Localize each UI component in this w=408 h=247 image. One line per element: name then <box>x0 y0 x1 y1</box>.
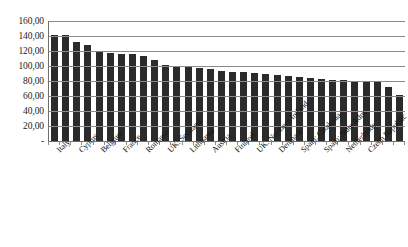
y-tick-label: 160,00 <box>18 16 44 26</box>
bar <box>196 68 203 141</box>
y-tick-label: 120,00 <box>18 46 44 56</box>
x-tick <box>393 141 394 145</box>
bar <box>151 60 158 141</box>
x-axis-labels: ItalyCyprusBelgiumFranceRomaniaUK: Scotl… <box>48 146 408 247</box>
bar <box>173 67 180 141</box>
bar <box>285 76 292 141</box>
y-tick-label: 140,00 <box>18 31 44 41</box>
x-tick <box>48 141 49 145</box>
y-tick-label: 100,00 <box>18 61 44 71</box>
gridline <box>49 96 405 97</box>
gridline <box>49 21 405 22</box>
bar-chart: 160,00140,00120,00100,0080,0060,0040,002… <box>0 0 408 247</box>
y-axis: 160,00140,00120,00100,0080,0060,0040,002… <box>0 0 48 142</box>
bar <box>307 78 314 141</box>
gridline <box>49 36 405 37</box>
gridline <box>49 81 405 82</box>
x-tick <box>404 141 405 145</box>
bar <box>129 54 136 141</box>
gridline <box>49 51 405 52</box>
bar <box>229 72 236 141</box>
y-tick-label: 80,00 <box>23 76 44 86</box>
y-tick-label: 40,00 <box>23 106 44 116</box>
bar <box>251 73 258 141</box>
y-tick-label: 60,00 <box>23 91 44 101</box>
y-tick-label: 20,00 <box>23 121 44 131</box>
bar <box>240 72 247 141</box>
bar <box>262 74 269 141</box>
y-tick-label: - <box>41 136 44 146</box>
gridline <box>49 111 405 112</box>
bar <box>140 56 147 141</box>
gridline <box>49 66 405 67</box>
